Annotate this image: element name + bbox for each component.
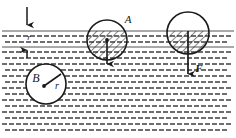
depth-label: r [27,32,31,42]
buoyancy-figure: A F B r r [0,0,236,138]
sphere-a-label: A [124,13,132,25]
sphere-b-label: B [32,71,40,85]
radius-label: r [55,80,59,91]
diagram-canvas: A F B r r [0,0,236,138]
force-label: F [194,62,203,74]
